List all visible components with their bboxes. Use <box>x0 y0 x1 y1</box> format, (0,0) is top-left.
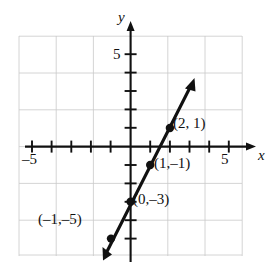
coordinate-plane-svg <box>0 0 278 273</box>
y-axis-label: y <box>118 10 125 25</box>
y-axis <box>127 21 135 262</box>
x-tick-label-negative-5: –5 <box>22 152 37 167</box>
point-marker <box>107 234 115 242</box>
point-label-2-1: (2, 1) <box>173 116 206 131</box>
x-axis <box>25 143 256 151</box>
point-label-1-neg1: (1,–1) <box>154 156 190 171</box>
point-label-0-neg3: (0,–3) <box>133 192 169 207</box>
graph-figure: y x –5 5 5 (2, 1) (1,–1) (0,–3) (–1,–5) <box>0 0 278 273</box>
x-tick-label-5: 5 <box>221 152 229 167</box>
y-tick-label-5: 5 <box>113 47 121 62</box>
point-label-neg1-neg5: (–1,–5) <box>38 212 82 227</box>
x-axis-label: x <box>258 148 265 163</box>
